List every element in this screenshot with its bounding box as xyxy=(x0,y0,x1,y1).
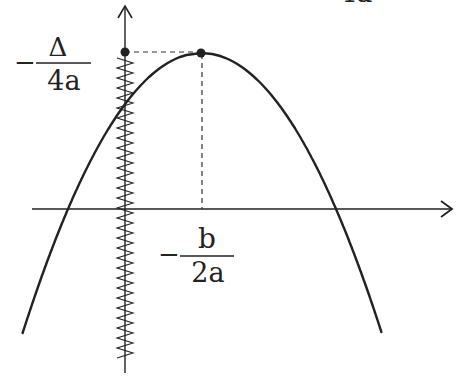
svg-text:4a: 4a xyxy=(47,65,80,96)
top-cutoff-label: 4a xyxy=(339,0,372,8)
svg-text:−: − xyxy=(158,239,180,269)
svg-text:2a: 2a xyxy=(191,257,224,288)
y-axis-point xyxy=(121,48,130,57)
x-axis xyxy=(32,201,452,217)
y-vertex-label: − Δ 4a xyxy=(14,32,91,96)
svg-text:−: − xyxy=(14,47,36,77)
svg-text:Δ: Δ xyxy=(49,32,68,62)
svg-text:b: b xyxy=(198,222,216,255)
x-vertex-label: − b 2a xyxy=(158,222,234,288)
parabola-diagram: − Δ 4a − b 2a 4a xyxy=(0,0,457,385)
vertex-guides xyxy=(125,52,202,209)
vertex-point xyxy=(197,49,206,58)
